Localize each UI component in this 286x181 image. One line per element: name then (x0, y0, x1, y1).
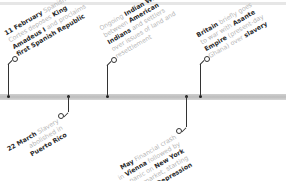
connector-stem (200, 64, 201, 96)
connector-stem (107, 65, 108, 96)
connector-elbow (63, 112, 68, 117)
event-label: 22 March Slaveryabolished inPuerto Rico (5, 117, 68, 167)
event-marker-circle (58, 113, 64, 119)
timeline-bar (0, 94, 286, 100)
connector-elbow (181, 127, 186, 132)
event-label: May Financial crashin Vienna followed by… (106, 133, 194, 181)
event-marker-circle (12, 56, 18, 62)
event-label: Ongoing Indian Warsbetween AmericanIndia… (98, 0, 181, 60)
connector-stem (8, 64, 9, 96)
event-marker-circle (176, 128, 182, 134)
connector-stem (186, 96, 187, 127)
connector-stem (68, 96, 69, 112)
event-label: 11 February SpanishCortes deposes KingAm… (3, 0, 91, 58)
event-label: Britain briefly goesto war with AsanteEm… (195, 0, 269, 60)
